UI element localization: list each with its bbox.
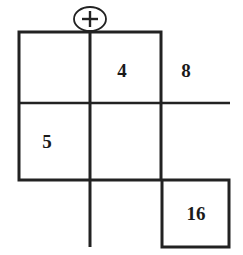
value-4: 4 — [117, 61, 127, 80]
figure-canvas: 4 8 5 16 — [0, 0, 243, 255]
value-8: 8 — [181, 61, 191, 80]
grid-figure-svg — [0, 0, 243, 255]
value-5: 5 — [42, 132, 52, 151]
value-16: 16 — [187, 204, 206, 223]
plus-in-ellipse-icon — [74, 7, 106, 31]
